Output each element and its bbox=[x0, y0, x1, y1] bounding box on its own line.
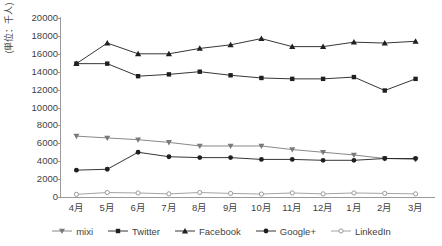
data-point-marker bbox=[228, 155, 233, 160]
data-point-marker bbox=[412, 38, 418, 44]
data-point-marker bbox=[198, 190, 202, 194]
legend-item-label: Facebook bbox=[199, 226, 241, 237]
data-point-marker bbox=[197, 155, 202, 160]
data-point-marker bbox=[382, 156, 387, 161]
y-axis-tick-mark bbox=[57, 197, 61, 198]
data-point-marker bbox=[259, 76, 263, 80]
legend-item-mixi[interactable]: mixi bbox=[51, 226, 93, 237]
data-point-marker bbox=[290, 191, 294, 195]
data-point-marker bbox=[228, 73, 232, 77]
data-point-marker bbox=[290, 157, 295, 162]
y-axis-tick-label: 18000 bbox=[18, 31, 58, 41]
data-point-marker bbox=[116, 229, 120, 233]
chart-legend: mixiTwitterFacebookGoogle+LinkedIn bbox=[0, 222, 442, 240]
data-point-marker bbox=[105, 190, 109, 194]
y-axis-tick-label: 4000 bbox=[18, 156, 58, 166]
data-point-marker bbox=[339, 229, 343, 233]
data-point-marker bbox=[321, 77, 325, 81]
data-point-marker bbox=[259, 192, 263, 196]
legend-item-label: mixi bbox=[76, 226, 93, 237]
series-line bbox=[76, 193, 415, 195]
legend-item-label: Google+ bbox=[280, 226, 316, 237]
y-axis-tick-label: 16000 bbox=[18, 49, 58, 59]
data-point-marker bbox=[383, 191, 387, 195]
series-google- bbox=[74, 150, 418, 173]
legend-marker-icon bbox=[51, 226, 73, 236]
y-axis-tick-label: 12000 bbox=[18, 85, 58, 95]
data-point-marker bbox=[290, 77, 294, 81]
data-point-marker bbox=[105, 61, 109, 65]
series-linkedin bbox=[74, 190, 417, 196]
data-point-marker bbox=[228, 191, 232, 195]
data-point-marker bbox=[167, 72, 171, 76]
data-point-marker bbox=[413, 156, 418, 161]
legend-item-facebook[interactable]: Facebook bbox=[174, 226, 241, 237]
data-point-marker bbox=[352, 191, 356, 195]
legend-marker-icon bbox=[255, 226, 277, 236]
series-line bbox=[76, 136, 415, 159]
plot-area bbox=[61, 18, 431, 197]
data-point-marker bbox=[258, 35, 264, 41]
data-point-marker bbox=[198, 70, 202, 74]
y-axis-title: (単位：千人) bbox=[0, 0, 18, 78]
series-twitter bbox=[74, 61, 418, 92]
line-chart: (単位：千人) 20000180001600014000120001000080… bbox=[0, 0, 442, 246]
y-axis-tick-label: 14000 bbox=[18, 67, 58, 77]
x-axis-tick-label: 3月 bbox=[393, 201, 439, 215]
data-point-marker bbox=[383, 88, 387, 92]
legend-marker-icon bbox=[107, 226, 129, 236]
data-point-marker bbox=[321, 192, 325, 196]
x-axis-tick-labels: 4月5月6月7月8月9月10月11月12月1月2月3月 bbox=[61, 201, 431, 219]
y-axis-tick-label: 2000 bbox=[18, 174, 58, 184]
data-point-marker bbox=[105, 167, 110, 172]
y-axis-tick-label: 0 bbox=[18, 192, 58, 202]
data-point-marker bbox=[321, 158, 326, 163]
legend-item-label: LinkedIn bbox=[355, 226, 391, 237]
data-point-marker bbox=[74, 192, 78, 196]
y-axis-tick-label: 8000 bbox=[18, 120, 58, 130]
series-canvas bbox=[61, 18, 431, 197]
legend-item-label: Twitter bbox=[132, 226, 160, 237]
data-point-marker bbox=[352, 75, 356, 79]
legend-item-google-[interactable]: Google+ bbox=[255, 226, 316, 237]
series-line bbox=[76, 39, 415, 64]
series-facebook bbox=[73, 35, 418, 66]
data-point-marker bbox=[413, 77, 417, 81]
data-point-marker bbox=[136, 74, 140, 78]
series-line bbox=[76, 152, 415, 170]
legend-marker-icon bbox=[330, 226, 352, 236]
legend-marker-icon bbox=[174, 226, 196, 236]
data-point-marker bbox=[167, 192, 171, 196]
x-axis-line bbox=[57, 197, 435, 198]
data-point-marker bbox=[413, 192, 417, 196]
y-axis-tick-label: 20000 bbox=[18, 13, 58, 23]
y-axis-tick-labels: 2000018000160001400012000100008000600040… bbox=[18, 0, 58, 210]
data-point-marker bbox=[263, 229, 268, 234]
series-line bbox=[76, 64, 415, 91]
y-axis-tick-label: 6000 bbox=[18, 138, 58, 148]
data-point-marker bbox=[74, 168, 79, 173]
y-axis-tick-label: 10000 bbox=[18, 103, 58, 113]
data-point-marker bbox=[259, 157, 264, 162]
data-point-marker bbox=[136, 150, 141, 155]
legend-item-linkedin[interactable]: LinkedIn bbox=[330, 226, 391, 237]
data-point-marker bbox=[104, 40, 110, 46]
data-point-marker bbox=[136, 191, 140, 195]
data-point-marker bbox=[352, 158, 357, 163]
data-point-marker bbox=[167, 154, 172, 159]
legend-item-twitter[interactable]: Twitter bbox=[107, 226, 160, 237]
